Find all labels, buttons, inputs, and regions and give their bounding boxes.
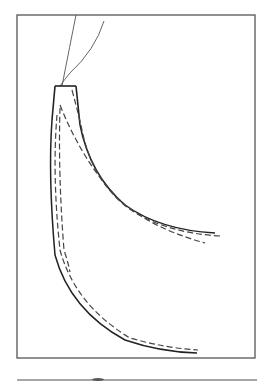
dashed-profile-curves bbox=[55, 90, 220, 350]
diagram-frame bbox=[17, 15, 255, 358]
solid-profile-curves bbox=[51, 120, 215, 353]
diagram-canvas bbox=[0, 0, 266, 381]
thin-guide-lines bbox=[60, 15, 104, 86]
